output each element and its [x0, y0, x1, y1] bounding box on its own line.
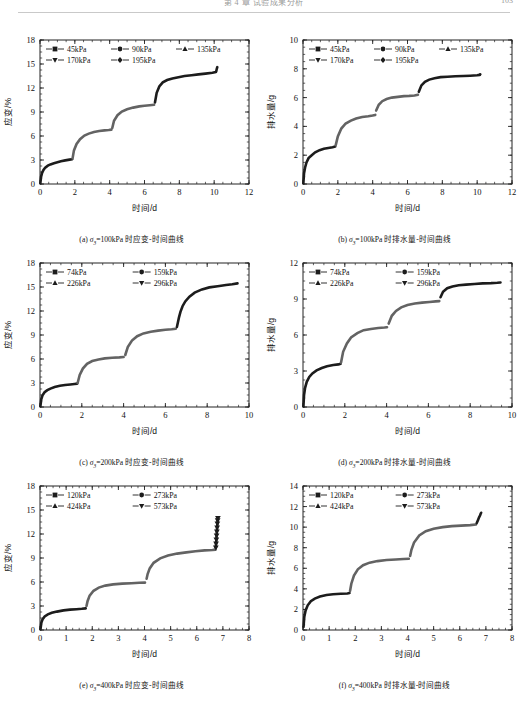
x-tick-label: 8 [177, 187, 181, 197]
legend-label: 170kPa [67, 56, 91, 65]
series-line [304, 593, 350, 627]
x-axis-title: 时间/d [395, 426, 420, 436]
x-axis-title: 时间/d [132, 649, 157, 659]
x-tick-label: 2 [343, 410, 347, 420]
caption-f-rest: =400kPa 时排水量-时间曲线 [355, 681, 451, 690]
x-tick-label: 0 [301, 633, 305, 643]
legend-label: 45kPa [67, 45, 87, 54]
legend-entry: 120kPa [309, 491, 354, 500]
series-line [155, 72, 216, 102]
series-line [419, 75, 480, 92]
x-tick-label: 6 [163, 410, 167, 420]
legend-entry: 74kPa [46, 268, 87, 277]
legend-label: 135kPa [460, 45, 484, 54]
y-tick-label: 3 [31, 155, 35, 165]
chart-svg-a: 0246810120369121518时间/d应变/%45kPa90kPa135… [0, 30, 263, 216]
x-tick-label: 12 [245, 187, 254, 197]
y-axis-title: 排水量/g [266, 318, 276, 352]
x-tick-label: 4 [142, 633, 147, 643]
y-tick-label: 15 [27, 282, 36, 292]
y-tick-label: 0 [31, 402, 35, 412]
y-axis-title: 排水量/g [266, 541, 276, 575]
legend-entry: 135kPa [439, 45, 484, 54]
series-line [87, 583, 146, 606]
y-tick-label: 12 [290, 502, 299, 512]
x-tick-label: 0 [38, 633, 42, 643]
legend-entry: 573kPa [396, 502, 441, 511]
legend-entry: 195kPa [374, 56, 419, 65]
legend-label: 424kPa [330, 502, 354, 511]
legend-entry: 120kPa [46, 491, 91, 500]
x-tick-label: 1 [327, 633, 331, 643]
y-tick-label: 9 [31, 330, 35, 340]
chart-svg-f: 01234567802468101214时间/d排水量/g120kPa273kP… [263, 476, 526, 662]
x-tick-label: 8 [510, 633, 514, 643]
figure-row-3: 0123456780369121518时间/d应变/%120kPa273kPa4… [0, 476, 527, 699]
legend-entry: 226kPa [309, 279, 354, 288]
series-line [73, 130, 112, 159]
x-tick-label: 3 [116, 633, 120, 643]
legend-label: 226kPa [330, 279, 354, 288]
series-line [147, 550, 216, 579]
y-tick-label: 10 [290, 35, 299, 45]
y-tick-label: 12 [27, 83, 36, 93]
caption-d-prefix: (d) [338, 458, 349, 467]
y-tick-label: 0 [294, 402, 298, 412]
legend-entry: 296kPa [396, 279, 441, 288]
legend-entry: 424kPa [46, 502, 91, 511]
y-tick-label: 9 [294, 294, 298, 304]
chart-svg-e: 0123456780369121518时间/d应变/%120kPa273kPa4… [0, 476, 263, 662]
figure-row-1: 0246810120369121518时间/d应变/%45kPa90kPa135… [0, 30, 527, 253]
series-line [441, 282, 501, 297]
caption-a-rest: =100kPa 时应变-时间曲线 [96, 235, 184, 244]
legend-entry: 195kPa [111, 56, 156, 65]
caption-c-rest: =200kPa 时应变-时间曲线 [96, 458, 184, 467]
x-tick-label: 0 [301, 410, 305, 420]
legend-entry: 273kPa [133, 491, 178, 500]
figure-panel-d: 0246810036912时间/d排水量/g74kPa159kPa226kPa2… [263, 253, 526, 476]
x-tick-label: 7 [221, 633, 225, 643]
x-tick-label: 8 [205, 410, 209, 420]
caption-d: (d) σ3=200kPa 时排水量-时间曲线 [263, 456, 526, 469]
y-tick-label: 4 [294, 584, 299, 594]
figure-panel-e: 0123456780369121518时间/d应变/%120kPa273kPa4… [0, 476, 263, 699]
x-tick-label: 2 [90, 633, 94, 643]
series-line [376, 95, 418, 111]
chart-a: 0246810120369121518时间/d应变/%45kPa90kPa135… [0, 30, 263, 216]
y-tick-label: 9 [31, 107, 35, 117]
y-tick-label: 3 [294, 366, 298, 376]
y-tick-label: 6 [294, 563, 298, 573]
x-tick-label: 6 [405, 187, 409, 197]
legend-label: 90kPa [132, 45, 152, 54]
figure-panel-f: 01234567802468101214时间/d排水量/g120kPa273kP… [263, 476, 526, 699]
legend-entry: 90kPa [111, 45, 152, 54]
legend-label: 45kPa [330, 45, 350, 54]
chart-svg-c: 02468100369121518时间/d应变/%74kPa159kPa226k… [0, 253, 263, 439]
x-tick-label: 10 [245, 410, 254, 420]
legend-label: 573kPa [154, 502, 178, 511]
legend-label: 296kPa [417, 279, 441, 288]
caption-e-rest: =400kPa 时应变-时间曲线 [96, 681, 184, 690]
x-tick-label: 12 [508, 187, 517, 197]
legend-entry: 135kPa [176, 45, 221, 54]
x-tick-label: 4 [384, 410, 389, 420]
legend-entry: 424kPa [309, 502, 354, 511]
series-line [341, 327, 387, 362]
y-tick-label: 6 [31, 131, 35, 141]
legend-entry: 90kPa [374, 45, 415, 54]
series-line [177, 283, 238, 327]
figure-grid: 0246810120369121518时间/d应变/%45kPa90kPa135… [0, 30, 527, 699]
y-tick-label: 15 [27, 505, 36, 515]
y-axis-title: 排水量/g [266, 95, 276, 129]
y-tick-label: 2 [294, 150, 298, 160]
legend-entry: 170kPa [309, 56, 354, 65]
header-page-number: 103 [501, 0, 513, 5]
x-axis-title: 时间/d [132, 426, 157, 436]
chart-svg-d: 0246810036912时间/d排水量/g74kPa159kPa226kPa2… [263, 253, 526, 439]
series-line [78, 357, 124, 383]
figure-panel-c: 02468100369121518时间/d应变/%74kPa159kPa226k… [0, 253, 263, 476]
y-tick-label: 8 [294, 64, 298, 74]
x-tick-label: 2 [336, 187, 340, 197]
series-line [410, 525, 476, 556]
legend-label: 573kPa [417, 502, 441, 511]
